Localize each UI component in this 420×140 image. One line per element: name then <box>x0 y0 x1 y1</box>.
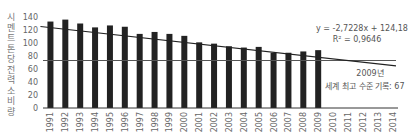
bar-2005 <box>256 47 262 108</box>
y-tick-label: 140 <box>23 13 38 22</box>
x-tick-label: 1992 <box>61 112 70 132</box>
x-tick-label: 1997 <box>136 112 145 132</box>
x-tick-label: 2013 <box>374 112 383 132</box>
x-tick-label: 1993 <box>76 112 85 132</box>
x-tick-label: 2009 <box>314 112 323 132</box>
reference-label-text: 세계 최고 수준 기록: 67 <box>325 81 404 91</box>
x-tick-label: 2001 <box>195 112 204 132</box>
y-axis-ticks: 020406080100120140 <box>23 13 38 113</box>
bar-2001 <box>196 42 202 108</box>
bar-2003 <box>226 46 232 108</box>
x-tick-label: 2010 <box>329 112 338 132</box>
x-tick-label: 1999 <box>165 112 174 132</box>
y-tick-label: 40 <box>28 78 38 87</box>
y-tick-label: 80 <box>28 52 38 61</box>
bar-1996 <box>122 27 128 108</box>
x-tick-label: 2003 <box>225 112 234 132</box>
x-tick-label: 1995 <box>106 112 115 132</box>
x-tick-label: 2004 <box>240 112 249 132</box>
x-tick-label: 2008 <box>299 112 308 132</box>
bar-1993 <box>77 24 83 109</box>
bar-1997 <box>137 34 143 108</box>
x-tick-label: 1998 <box>151 112 160 132</box>
bar-2009 <box>315 50 321 108</box>
x-tick-label: 2000 <box>180 112 189 132</box>
y-tick-label: 20 <box>28 91 38 100</box>
trendline-r-squared: R² = 0,9646 <box>333 35 382 44</box>
x-tick-label: 2012 <box>359 112 368 132</box>
x-tick-label: 1996 <box>121 112 130 132</box>
x-tick-label: 2011 <box>344 112 353 132</box>
y-axis-label-char: 시 <box>7 12 15 22</box>
x-axis-ticks: 1991199219931994199519961997199819992000… <box>46 112 397 132</box>
bar-1994 <box>92 27 98 108</box>
x-tick-label: 1991 <box>46 112 55 132</box>
y-tick-label: 120 <box>23 26 38 35</box>
y-tick-label: 60 <box>28 65 38 74</box>
y-axis-label-char: 당 <box>7 54 15 64</box>
bar-1992 <box>62 20 68 108</box>
y-axis-label-char: 량 <box>7 106 15 117</box>
y-axis-label-char: 전 <box>7 65 15 75</box>
bar-1995 <box>107 25 113 108</box>
x-tick-label: 1994 <box>91 112 100 132</box>
bars <box>47 20 321 108</box>
bar-2000 <box>181 36 187 108</box>
y-axis-label-char: 력 <box>7 74 15 85</box>
y-axis-label-char: 소 <box>7 86 15 96</box>
y-tick-label: 0 <box>33 104 38 113</box>
x-tick-label: 2006 <box>270 112 279 132</box>
bar-1999 <box>166 34 172 108</box>
bar-1991 <box>47 22 53 108</box>
y-axis-label-char: 트 <box>7 33 15 43</box>
y-axis-label-char: 톤 <box>7 44 15 54</box>
x-tick-label: 2002 <box>210 112 219 132</box>
y-axis-label-char: 멘 <box>7 23 15 33</box>
bar-1998 <box>152 32 158 108</box>
y-axis-label-char: 비 <box>7 96 15 106</box>
bar-2004 <box>241 48 247 108</box>
y-tick-label: 100 <box>23 39 38 48</box>
x-tick-label: 2014 <box>389 112 398 132</box>
bar-2002 <box>211 44 217 108</box>
trendline-equation: y = -2,7228x + 124,18 <box>316 24 408 33</box>
x-tick-label: 2007 <box>284 112 293 132</box>
x-tick-label: 2005 <box>255 112 264 132</box>
chart: 시멘트톤당전력소비량 020406080100120140 1991199219… <box>0 0 420 140</box>
reference-label-year: 2009년 <box>356 68 383 78</box>
y-axis-label: 시멘트톤당전력소비량 <box>7 12 15 117</box>
